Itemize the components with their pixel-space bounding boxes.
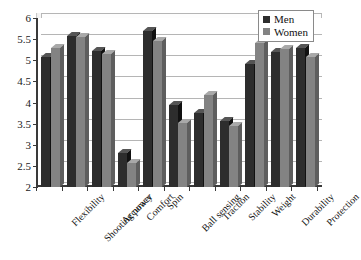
legend-label-women: Women [274,26,308,39]
legend-swatch-men-icon [263,16,270,23]
legend-label-men: Men [274,13,294,26]
legend-item-men: Men [263,13,308,26]
x-axis-label: Flexibility [69,191,106,228]
chart-legend: Men Women [258,10,314,42]
legend-swatch-women-icon [263,28,270,35]
legend-item-women: Women [263,26,308,39]
